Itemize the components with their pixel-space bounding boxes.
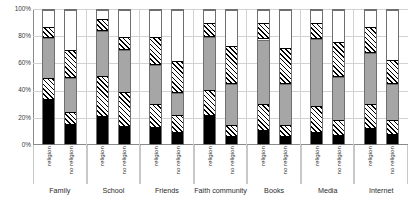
subgroup-label-text: religion (314, 146, 320, 166)
y-axis-tick-label: 60% (1, 60, 31, 66)
bar-segment (172, 10, 183, 61)
y-axis-tick-label: 80% (1, 33, 31, 39)
y-axis-tick-label: 0% (1, 142, 31, 148)
bar-segment (311, 106, 322, 133)
stacked-bar[interactable] (310, 9, 323, 145)
x-axis-group: religionno religionBooks (247, 145, 301, 205)
bar-segment (280, 10, 291, 48)
x-axis-group: religionno religionSchool (87, 145, 141, 205)
stacked-bar[interactable] (364, 9, 377, 145)
bar-segment (311, 39, 322, 106)
bar-segment (280, 84, 291, 126)
bar-segment (280, 48, 291, 84)
subgroup-label-text: no religion (389, 146, 395, 175)
bar-segment (97, 31, 108, 75)
bar-segment (65, 112, 76, 125)
bar-segment (333, 10, 344, 42)
stacked-bar[interactable] (171, 9, 184, 145)
subgroup-label-text: religion (367, 146, 373, 166)
bar-segment (387, 120, 398, 135)
bar-segment (387, 60, 398, 84)
bar-segment (226, 84, 237, 126)
axis-tick (140, 145, 141, 184)
category-label: School (87, 184, 141, 195)
bar-segment (43, 78, 54, 99)
stacked-bar-chart: 0%20%40%60%80%100% religionno religionFa… (0, 0, 418, 205)
axis-tick (407, 145, 408, 184)
subgroup-label: no religion (225, 145, 238, 184)
bar-segment (311, 133, 322, 144)
stacked-bar[interactable] (257, 9, 270, 145)
bar-segment (65, 50, 76, 78)
bar-segment (172, 61, 183, 93)
category-label: Friends (140, 184, 194, 195)
x-axis-group: religionno religionFamily (33, 145, 87, 205)
stacked-bar[interactable] (96, 9, 109, 145)
bar-group (194, 9, 248, 145)
category-label: Family (33, 184, 87, 195)
subgroup-labels: religionno religion (354, 145, 408, 184)
stacked-bar[interactable] (118, 9, 131, 145)
bar-segment (97, 10, 108, 19)
bar-segment (226, 10, 237, 46)
subgroup-label: no religion (332, 145, 345, 184)
bar-segment (65, 78, 76, 112)
stacked-bar[interactable] (279, 9, 292, 145)
subgroup-label-text: religion (153, 146, 159, 166)
bar-segment (204, 23, 215, 36)
axis-tick (33, 145, 34, 184)
bar-segment (311, 23, 322, 39)
stacked-bar[interactable] (203, 9, 216, 145)
bar-segment (258, 131, 269, 144)
bar-segment (150, 104, 161, 128)
subgroup-label: religion (149, 145, 162, 184)
bar-segment (204, 37, 215, 91)
subgroup-label-text: no religion (175, 146, 181, 175)
category-label: Books (247, 184, 301, 195)
y-axis-tick-label: 20% (1, 115, 31, 121)
bar-segment (280, 137, 291, 144)
bar-segment (172, 133, 183, 144)
subgroup-label-text: no religion (68, 146, 74, 175)
bar-segment (387, 10, 398, 60)
bar-segment (172, 93, 183, 114)
stacked-bar[interactable] (225, 9, 238, 145)
bar-segment (365, 104, 376, 129)
stacked-bar[interactable] (149, 9, 162, 145)
y-axis-tick-label: 100% (1, 6, 31, 12)
subgroup-label: religion (364, 145, 377, 184)
bar-segment (65, 125, 76, 144)
bar-segment (333, 136, 344, 144)
bar-segment (333, 120, 344, 136)
bar-segment (119, 50, 130, 92)
subgroup-label-text: no religion (121, 146, 127, 175)
subgroup-label: religion (42, 145, 55, 184)
category-label: Faith community (194, 184, 248, 195)
x-axis: religionno religionFamilyreligionno reli… (33, 145, 408, 205)
bar-segment (119, 10, 130, 37)
bar-segment (365, 129, 376, 144)
y-axis: 0%20%40%60%80%100% (0, 9, 31, 145)
axis-tick (194, 145, 195, 184)
axis-tick (301, 145, 302, 184)
stacked-bar[interactable] (64, 9, 77, 145)
bar-group (301, 9, 355, 145)
bar-segment (365, 27, 376, 52)
subgroup-label-text: religion (206, 146, 212, 166)
bar-segment (150, 10, 161, 37)
stacked-bar[interactable] (386, 9, 399, 145)
bar-segment (43, 10, 54, 27)
stacked-bar[interactable] (42, 9, 55, 145)
stacked-bar[interactable] (332, 9, 345, 145)
bar-segment (258, 104, 269, 131)
bar-group (33, 9, 87, 145)
bar-segment (204, 90, 215, 115)
bar-segment (226, 137, 237, 144)
bar-segment (387, 135, 398, 144)
bar-segment (258, 10, 269, 23)
subgroup-label-text: no religion (336, 146, 342, 175)
subgroup-label-text: no religion (282, 146, 288, 175)
bar-segment (150, 128, 161, 144)
subgroup-label: no religion (279, 145, 292, 184)
axis-tick (87, 145, 88, 184)
